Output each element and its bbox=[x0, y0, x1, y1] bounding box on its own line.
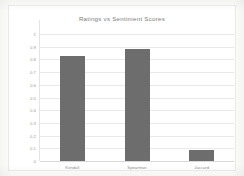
y-axis-tick-label: 0.5 bbox=[30, 95, 36, 100]
bar bbox=[125, 49, 150, 161]
y-axis-tick-label: 0.9 bbox=[30, 44, 36, 49]
bar-slot: Spearman bbox=[105, 34, 170, 161]
y-axis-tick-label: 0.3 bbox=[30, 120, 36, 125]
bar-slot: Jaccard bbox=[169, 34, 234, 161]
x-axis-tick-label: Spearman bbox=[127, 165, 146, 170]
y-axis-tick-label: 0.7 bbox=[30, 70, 36, 75]
chart-frame: Ratings vs Sentiment Scores 10.90.80.70.… bbox=[8, 5, 236, 171]
y-axis-tick-label: 0 bbox=[34, 159, 36, 164]
gridline: 0 bbox=[40, 161, 234, 162]
scanned-chart-page: Ratings vs Sentiment Scores 10.90.80.70.… bbox=[0, 0, 244, 176]
x-axis-tick-label: Jaccard bbox=[194, 165, 209, 170]
bar bbox=[189, 150, 214, 161]
y-axis-tick-label: 0.2 bbox=[30, 133, 36, 138]
plot-area: 10.90.80.70.60.50.40.30.20.10 KendallSpe… bbox=[40, 34, 234, 161]
bar bbox=[60, 56, 85, 161]
y-axis-tick-label: 0.1 bbox=[30, 146, 36, 151]
bar-series: KendallSpearmanJaccard bbox=[40, 34, 234, 161]
y-axis-tick-label: 1 bbox=[34, 32, 36, 37]
y-axis-tick-label: 0.8 bbox=[30, 57, 36, 62]
y-axis-tick-label: 0.6 bbox=[30, 82, 36, 87]
chart-title: Ratings vs Sentiment Scores bbox=[9, 15, 235, 22]
y-axis-tick-label: 0.4 bbox=[30, 108, 36, 113]
x-axis-tick-label: Kendall bbox=[65, 165, 79, 170]
bar-slot: Kendall bbox=[40, 34, 105, 161]
